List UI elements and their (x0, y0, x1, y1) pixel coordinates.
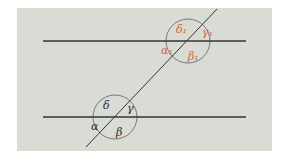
label-alpha-1: α₁ (161, 44, 173, 57)
diagram-panel (17, 8, 272, 151)
label-alpha: α (91, 120, 99, 133)
label-gamma-1: γ₁ (202, 26, 213, 39)
label-gamma: γ (127, 102, 134, 115)
label-delta: δ (103, 99, 110, 112)
label-beta-1: β₁ (187, 50, 199, 63)
diagram-canvas: δ₁ γ₁ α₁ β₁ δ γ α β (0, 0, 287, 164)
label-delta-1: δ₁ (176, 23, 187, 36)
parallel-lines-transversal-diagram: δ₁ γ₁ α₁ β₁ δ γ α β (0, 0, 287, 164)
label-beta: β (115, 126, 122, 139)
